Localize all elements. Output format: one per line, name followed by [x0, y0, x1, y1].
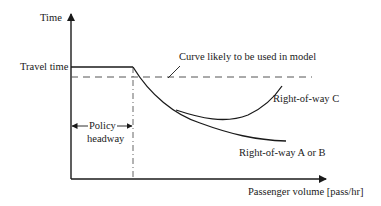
x-axis-label: Passenger volume [pass/hr]	[248, 186, 363, 198]
right-of-way-ab-curve	[133, 67, 286, 141]
right-of-way-ab-label: Right-of-way A or B	[239, 147, 326, 159]
travel-time-label: Travel time	[20, 61, 68, 73]
right-of-way-c-curve	[176, 86, 282, 119]
right-of-way-c-label: Right-of-way C	[273, 93, 339, 105]
y-axis-label: Time	[40, 12, 62, 24]
policy-headway-label-line2: headway	[87, 133, 124, 145]
model-curve-label: Curve likely to be used in model	[179, 51, 316, 63]
policy-headway-label-line1: Policy	[89, 120, 116, 132]
model-curve-leader-line	[168, 66, 180, 78]
